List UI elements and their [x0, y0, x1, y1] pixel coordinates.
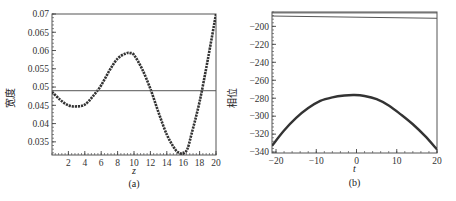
- panel-label: (b): [349, 177, 361, 189]
- x-tick-label: −20: [269, 156, 284, 166]
- figure: 24681012141618200.0350.040.0450.050.0550…: [0, 0, 456, 201]
- x-tick-label: 14: [162, 158, 172, 168]
- y-tick-label: −320: [249, 129, 269, 139]
- plot-area: [272, 13, 437, 150]
- y-tick-label: 0.055: [28, 64, 50, 74]
- x-tick-label: 16: [178, 158, 188, 168]
- x-tick-label: −10: [309, 156, 324, 166]
- y-tick-label: −340: [249, 147, 269, 157]
- data-curve: [52, 14, 216, 154]
- y-tick-label: 0.06: [32, 46, 49, 56]
- x-axis-label: z: [131, 165, 136, 176]
- data-curve: [272, 95, 437, 149]
- plot-frame: [272, 12, 437, 153]
- y-tick-label: 0.05: [32, 82, 49, 92]
- chart-panel-b: −20−1001020−200−220−240−260−280−300−320−…: [226, 12, 442, 189]
- x-tick-label: 4: [82, 158, 87, 168]
- y-tick-label: −200: [249, 22, 269, 32]
- y-tick-label: 0.04: [32, 119, 49, 129]
- y-axis-label: 相位: [226, 88, 238, 108]
- x-tick-label: 6: [99, 158, 104, 168]
- x-tick-label: 2: [66, 158, 71, 168]
- chart-panel-a: 24681012141618200.0350.040.0450.050.0550…: [4, 9, 221, 190]
- x-axis-label: t: [353, 163, 356, 174]
- y-tick-label: −260: [249, 76, 269, 86]
- x-tick-label: 20: [432, 156, 442, 166]
- x-tick-label: 18: [195, 158, 205, 168]
- y-tick-label: 0.07: [32, 9, 49, 19]
- y-tick-label: 0.065: [28, 28, 50, 38]
- y-tick-label: 0.035: [28, 137, 50, 147]
- y-tick-label: −300: [249, 111, 269, 121]
- reference-line: [272, 16, 437, 18]
- x-tick-label: 10: [392, 156, 402, 166]
- x-tick-label: 20: [211, 158, 221, 168]
- y-tick-label: −280: [249, 94, 269, 104]
- x-tick-label: 12: [146, 158, 156, 168]
- panel-label: (a): [128, 178, 139, 190]
- x-tick-label: 8: [115, 158, 120, 168]
- y-tick-label: −240: [249, 58, 269, 68]
- y-tick-label: −220: [249, 40, 269, 50]
- y-tick-label: 0.045: [28, 101, 50, 111]
- y-axis-label: 宽度: [4, 88, 16, 108]
- plot-area: [52, 14, 216, 154]
